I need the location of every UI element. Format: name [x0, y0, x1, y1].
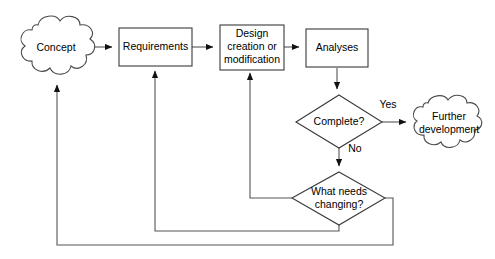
flowchart-diagram: Concept Requirements Design creation or … — [0, 0, 495, 259]
complete-label: Complete? — [314, 115, 365, 127]
edge-label-yes: Yes — [379, 98, 396, 110]
node-analyses[interactable]: Analyses — [306, 29, 368, 67]
node-design-creation-or-modification[interactable]: Design creation or modification — [220, 25, 284, 70]
design-label-line1: Design — [236, 27, 269, 39]
further-development-label-line1: Further — [432, 110, 466, 122]
requirements-label: Requirements — [123, 40, 188, 52]
node-requirements[interactable]: Requirements — [119, 28, 192, 66]
design-label-line3: modification — [224, 53, 280, 65]
node-further-development[interactable]: Further development — [413, 95, 481, 147]
changing-label-line1: What needs — [311, 185, 367, 197]
changing-label-line2: changing? — [315, 198, 364, 210]
node-what-needs-changing-decision[interactable]: What needs changing? — [292, 172, 385, 225]
edge-label-no: No — [348, 142, 362, 154]
node-concept[interactable]: Concept — [21, 16, 95, 74]
concept-label: Concept — [36, 41, 75, 53]
flowchart-canvas: Concept Requirements Design creation or … — [0, 0, 495, 259]
further-development-label-line2: development — [419, 123, 479, 135]
node-complete-decision[interactable]: Complete? — [296, 95, 382, 148]
edge-changing-to-design — [250, 73, 292, 198]
design-label-line2: creation or — [227, 40, 277, 52]
analyses-label: Analyses — [316, 41, 359, 53]
